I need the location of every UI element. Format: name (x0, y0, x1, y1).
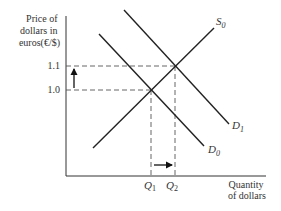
label-d1: D1 (231, 119, 244, 134)
x-tick-q1: Q1 (144, 179, 156, 193)
y-tick-1-0: 1.0 (48, 84, 61, 95)
y-axis-label: Price of dollars in euros(€/$) (19, 13, 60, 49)
label-d0: D0 (207, 143, 220, 158)
supply-demand-diagram: Price of dollars in euros(€/$) 1.1 1.0 S… (0, 0, 281, 211)
x-tick-q2: Q2 (166, 179, 178, 193)
y-tick-1-1: 1.1 (48, 60, 61, 71)
x-axis-label: Quantity of dollars (228, 179, 266, 201)
demand-curve-d1 (124, 10, 229, 124)
label-s0: S0 (216, 15, 226, 30)
